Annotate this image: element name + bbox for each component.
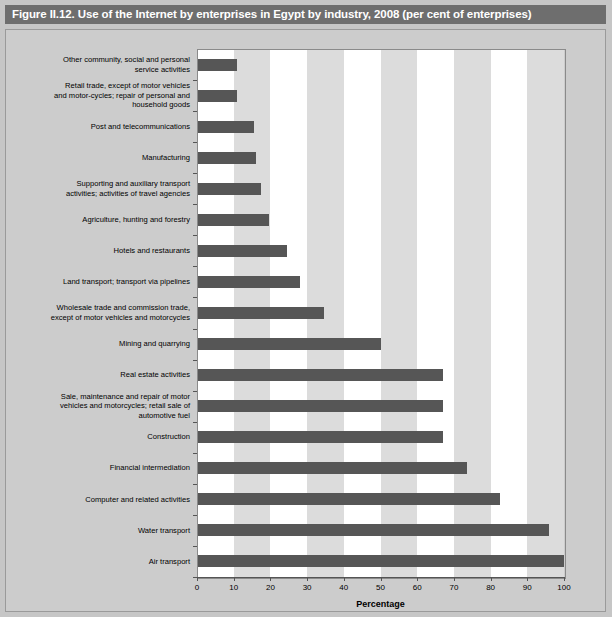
x-axis-tick-label: 100 [549, 583, 579, 592]
x-axis-tick-label: 50 [366, 583, 396, 592]
category-label: Water transport [0, 526, 190, 536]
bar-row: Mining and quarrying [197, 338, 564, 350]
bar-row: Supporting and auxiliary transport activ… [197, 183, 564, 195]
category-label: Wholesale trade and commission trade, ex… [0, 303, 190, 322]
category-label: Sale, maintenance and repair of motor ve… [0, 392, 190, 421]
category-label: Mining and quarrying [0, 339, 190, 349]
y-axis-tick [193, 484, 197, 485]
x-axis-title: Percentage [197, 599, 564, 609]
x-axis-tick [527, 577, 528, 581]
y-axis-tick [193, 546, 197, 547]
x-axis-tick [307, 577, 308, 581]
bar-row: Computer and related activities [197, 493, 564, 505]
y-axis-tick [193, 173, 197, 174]
bar-row: Agriculture, hunting and forestry [197, 214, 564, 226]
category-label: Supporting and auxiliary transport activ… [0, 179, 190, 198]
bar-series: Other community, social and personal ser… [197, 49, 564, 577]
bar-row: Land transport; transport via pipelines [197, 276, 564, 288]
x-axis-tick [454, 577, 455, 581]
x-axis-tick-label: 10 [219, 583, 249, 592]
y-axis-tick [193, 453, 197, 454]
figure-container: Figure II.12. Use of the Internet by ent… [0, 0, 612, 617]
y-axis-tick [193, 515, 197, 516]
category-label: Air transport [0, 557, 190, 567]
bar-row: Sale, maintenance and repair of motor ve… [197, 400, 564, 412]
category-label: Financial intermediation [0, 463, 190, 473]
x-axis-tick [197, 577, 198, 581]
y-axis-tick [193, 360, 197, 361]
bar[interactable] [197, 307, 324, 319]
x-axis-tick-label: 70 [439, 583, 469, 592]
x-axis-tick [417, 577, 418, 581]
bar-row: Air transport [197, 555, 564, 567]
bar[interactable] [197, 59, 237, 71]
bar[interactable] [197, 152, 256, 164]
figure-title: Figure II.12. Use of the Internet by ent… [12, 8, 531, 20]
x-axis-tick-label: 90 [512, 583, 542, 592]
bar-row: Water transport [197, 524, 564, 536]
bar[interactable] [197, 369, 443, 381]
category-label: Real estate activities [0, 370, 190, 380]
category-label: Agriculture, hunting and forestry [0, 215, 190, 225]
x-axis-tick [381, 577, 382, 581]
category-label: Manufacturing [0, 153, 190, 163]
x-axis-tick-label: 40 [329, 583, 359, 592]
plot-area: Other community, social and personal ser… [197, 49, 564, 577]
category-label: Other community, social and personal ser… [0, 55, 190, 74]
y-axis-tick [193, 329, 197, 330]
bar[interactable] [197, 555, 564, 567]
y-axis-tick [193, 235, 197, 236]
bar[interactable] [197, 431, 443, 443]
bar[interactable] [197, 121, 254, 133]
category-label: Construction [0, 432, 190, 442]
y-axis-tick [193, 142, 197, 143]
bar-row: Construction [197, 431, 564, 443]
x-axis-tick [234, 577, 235, 581]
bar[interactable] [197, 90, 237, 102]
bar[interactable] [197, 245, 287, 257]
category-label: Land transport; transport via pipelines [0, 277, 190, 287]
y-axis-tick [193, 204, 197, 205]
bar-row: Manufacturing [197, 152, 564, 164]
bar-row: Wholesale trade and commission trade, ex… [197, 307, 564, 319]
bar[interactable] [197, 462, 467, 474]
x-axis-tick-label: 60 [402, 583, 432, 592]
bar[interactable] [197, 338, 381, 350]
y-axis-tick [193, 297, 197, 298]
bar[interactable] [197, 493, 500, 505]
bar-row: Post and telecommunications [197, 121, 564, 133]
x-axis-tick [491, 577, 492, 581]
category-label: Computer and related activities [0, 495, 190, 505]
bar[interactable] [197, 400, 443, 412]
chart-panel: Other community, social and personal ser… [5, 29, 606, 612]
bar[interactable] [197, 524, 549, 536]
bar[interactable] [197, 214, 269, 226]
y-axis-tick [193, 80, 197, 81]
x-axis-tick [344, 577, 345, 581]
bar-row: Other community, social and personal ser… [197, 59, 564, 71]
figure-title-bar: Figure II.12. Use of the Internet by ent… [5, 5, 606, 24]
y-axis-tick [193, 111, 197, 112]
bar-row: Financial intermediation [197, 462, 564, 474]
x-axis-tick-label: 30 [292, 583, 322, 592]
bar-row: Real estate activities [197, 369, 564, 381]
x-axis-tick-label: 80 [476, 583, 506, 592]
y-axis-tick [193, 391, 197, 392]
bar[interactable] [197, 183, 261, 195]
bar[interactable] [197, 276, 300, 288]
x-axis-tick [564, 577, 565, 581]
x-axis-tick-label: 20 [255, 583, 285, 592]
category-label: Hotels and restaurants [0, 246, 190, 256]
bar-row: Hotels and restaurants [197, 245, 564, 257]
y-axis-tick [193, 422, 197, 423]
category-label: Post and telecommunications [0, 122, 190, 132]
bar-row: Retail trade, except of motor vehicles a… [197, 90, 564, 102]
x-axis-tick [270, 577, 271, 581]
category-label: Retail trade, except of motor vehicles a… [0, 81, 190, 110]
x-axis-tick-label: 0 [182, 583, 212, 592]
y-axis-tick [193, 266, 197, 267]
